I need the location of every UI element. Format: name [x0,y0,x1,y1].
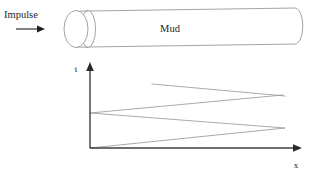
wave-path-zigzag [90,95,285,148]
y-axis: t [75,62,94,148]
wave-path-later-segment [152,84,285,96]
impulse-mud-pipe-xt-diagram: Mud Impulse t [0,0,314,177]
pipe-bottom-edge [88,44,296,47]
pipe-medium-label: Mud [160,23,181,34]
pipe-right-end-cap [296,8,303,44]
y-axis-label: t [75,64,78,74]
impulse-label: Impulse [4,9,38,20]
x-axis-arrowhead [293,144,302,152]
figure-container: Mud Impulse t [0,0,314,177]
x-axis: x [90,144,302,170]
pipe-mouth-ellipse [64,11,88,48]
x-axis-label: x [294,160,299,170]
arrow-right-icon [16,26,45,33]
pipe-assembly: Mud [64,8,303,48]
y-axis-arrowhead [86,62,94,71]
characteristic-lines [90,84,285,148]
pipe-top-edge [88,8,296,11]
xt-plot: t x [75,62,302,170]
impulse-annotation: Impulse [4,9,45,32]
